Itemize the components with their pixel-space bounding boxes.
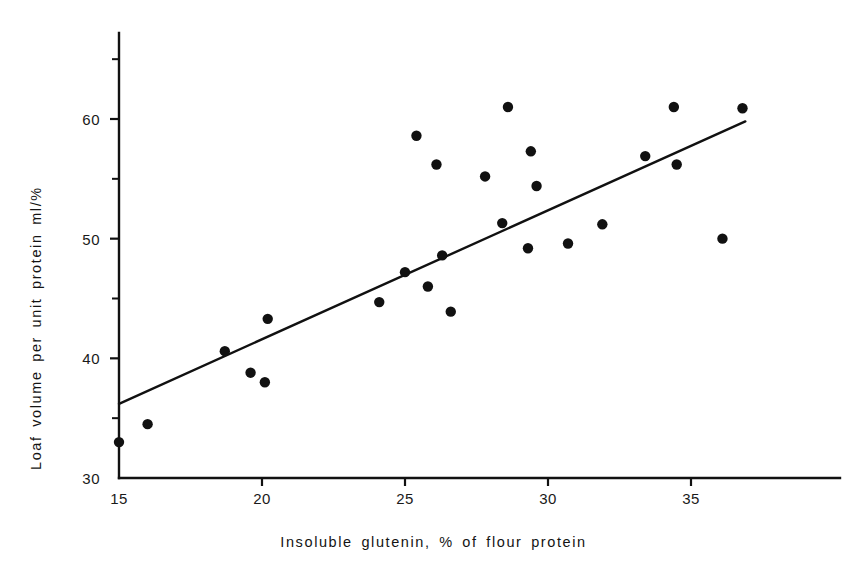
- y-tick-label: 30: [52, 470, 100, 487]
- data-point: [526, 146, 536, 156]
- y-tick-label: 50: [52, 230, 100, 247]
- x-tick-label: 35: [682, 490, 700, 507]
- data-point: [737, 103, 747, 113]
- y-tick-label: 60: [52, 111, 100, 128]
- scatter-plot-figure: 30405060 1520253035 Insoluble glutenin, …: [0, 0, 867, 583]
- data-point: [431, 159, 441, 169]
- x-tick-label: 25: [396, 490, 414, 507]
- data-point: [374, 297, 384, 307]
- data-point: [717, 233, 727, 243]
- data-point: [245, 367, 255, 377]
- data-point: [597, 219, 607, 229]
- data-point: [497, 218, 507, 228]
- data-point: [672, 159, 682, 169]
- y-axis-title: Loaf volume per unit protein ml/%: [28, 10, 58, 470]
- data-point: [114, 437, 124, 447]
- data-point: [669, 102, 679, 112]
- plot-canvas: [0, 0, 867, 583]
- data-point: [446, 306, 456, 316]
- data-point: [503, 102, 513, 112]
- data-points: [114, 102, 748, 447]
- data-point: [480, 171, 490, 181]
- data-point: [411, 131, 421, 141]
- data-point: [563, 238, 573, 248]
- data-point: [640, 151, 650, 161]
- x-axis-title: Insoluble glutenin, % of flour protein: [0, 534, 867, 550]
- x-tick-label: 15: [110, 490, 128, 507]
- axes: [119, 33, 840, 478]
- data-point: [531, 181, 541, 191]
- data-point: [142, 419, 152, 429]
- x-tick-label: 20: [253, 490, 271, 507]
- x-tick-label: 30: [539, 490, 557, 507]
- data-point: [437, 250, 447, 260]
- data-point: [523, 243, 533, 253]
- data-point: [260, 377, 270, 387]
- y-tick-label: 40: [52, 350, 100, 367]
- data-point: [263, 314, 273, 324]
- data-point: [220, 346, 230, 356]
- data-point: [400, 267, 410, 277]
- data-point: [423, 281, 433, 291]
